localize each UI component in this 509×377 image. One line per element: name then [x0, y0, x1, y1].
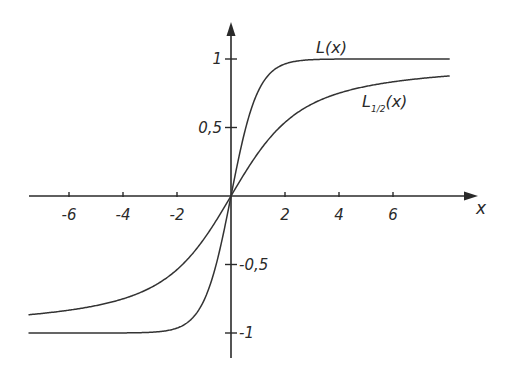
x-axis-label: x	[475, 198, 487, 218]
y-tick-label: 0,5	[198, 119, 222, 137]
x-tick-label: -2	[170, 206, 185, 224]
x-tick-label: 2	[280, 206, 290, 224]
y-tick-label: -1	[239, 324, 254, 342]
y-axis-arrow-icon	[227, 22, 236, 36]
series-label-L-half-main: L	[362, 92, 371, 111]
chart: -6-4-2246 10,5-0,5-1 x L(x) L1/2(x)	[0, 0, 509, 377]
series-label-L-half-sub: 1/2	[371, 104, 386, 114]
y-tick-label: -0,5	[239, 256, 268, 274]
x-tick-label: -6	[62, 206, 77, 224]
series-label-L-half-arg: (x)	[385, 92, 407, 111]
y-tick-label: 1	[212, 50, 222, 68]
svg-text:L(x): L(x)	[316, 38, 347, 57]
series-label-L-main: L	[316, 38, 325, 57]
x-tick-label: 4	[334, 206, 344, 224]
series-label-L-arg: (x)	[325, 38, 347, 57]
svg-text:L1/2(x): L1/2(x)	[362, 92, 407, 114]
series-label-L-half: L1/2(x)	[362, 92, 407, 114]
series-label-L: L(x)	[316, 38, 347, 57]
x-tick-label: 6	[388, 206, 398, 224]
axes	[29, 22, 478, 358]
x-tick-label: -4	[116, 206, 131, 224]
